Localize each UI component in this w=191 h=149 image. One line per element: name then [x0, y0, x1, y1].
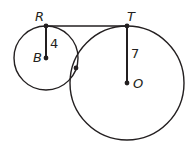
- label-O: O: [133, 76, 143, 91]
- label-B: B: [33, 50, 42, 65]
- label-radius-4: 4: [50, 36, 58, 51]
- point-O: [125, 81, 130, 86]
- label-T: T: [127, 9, 136, 24]
- geometry-diagram: R T B O 4 7: [0, 0, 191, 149]
- point-tangency: [74, 66, 79, 71]
- point-R: [44, 24, 49, 29]
- label-R: R: [35, 9, 44, 24]
- point-T: [125, 24, 130, 29]
- point-B: [44, 56, 49, 61]
- label-radius-7: 7: [131, 46, 139, 61]
